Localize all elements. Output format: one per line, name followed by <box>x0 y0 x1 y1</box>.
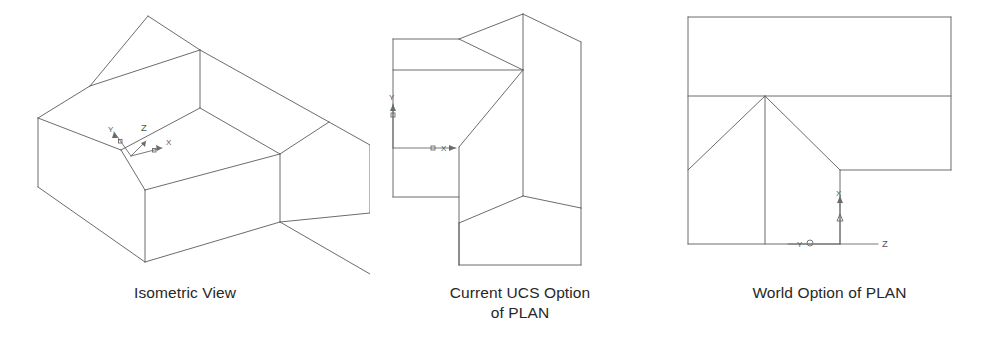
edge-hip-lower-left <box>459 196 523 223</box>
panel-isometric-view: Y Z X Isometric View <box>0 0 370 354</box>
caption-world-option: World Option of PLAN <box>670 283 989 303</box>
current-ucs-wireframe <box>393 14 581 265</box>
ucs-arrowhead-x <box>156 145 162 151</box>
edge-ridge-main <box>200 50 329 122</box>
caption-isometric-view: Isometric View <box>0 283 370 303</box>
ucs-label-y: Y <box>797 240 803 249</box>
edge-valley-left <box>121 150 145 190</box>
edge-valley-diagonal <box>459 70 523 147</box>
edge-eave-left-front <box>38 118 121 150</box>
edge-hip-left-to-ridge <box>90 50 200 86</box>
ucs-label-x: X <box>166 138 172 147</box>
edge-valley-to-right <box>145 154 280 190</box>
edge-ridge-top-left <box>148 16 200 50</box>
ucs-label-z: Z <box>141 122 147 133</box>
caption-current-ucs-option: Current UCS Option of PLAN <box>370 283 670 323</box>
caption-current-ucs-line2: of PLAN <box>370 303 670 323</box>
ucs-icon-isometric: Y Z X <box>108 122 172 156</box>
figure-sheet: Y Z X Isometric View <box>0 0 989 354</box>
edge-eave-far-right <box>329 122 370 145</box>
ucs-label-x: X <box>441 144 447 153</box>
isometric-view-drawing: Y Z X <box>0 0 370 280</box>
caption-isometric-line1: Isometric View <box>134 284 236 301</box>
isometric-wireframe <box>38 16 370 274</box>
edge-hip-upper-left <box>90 16 148 86</box>
edge-hip-inner-right <box>200 108 280 154</box>
edge-eave-upper-left <box>38 86 90 118</box>
ucs-icon-current: Y X <box>389 93 456 153</box>
current-ucs-plan-drawing: Y X <box>370 0 670 280</box>
ucs-label-x: X <box>836 189 842 198</box>
edge-hip-inner-left <box>121 108 200 150</box>
edge-base-right-1 <box>280 213 370 222</box>
ucs-label-y: Y <box>389 93 395 102</box>
ucs-icon-world: X Z Y <box>788 189 888 249</box>
edge-base-right-2 <box>280 222 370 274</box>
ucs-arrowhead-y <box>390 104 396 111</box>
ucs-arrowhead-x <box>449 145 456 151</box>
world-plan-wireframe <box>688 17 951 244</box>
edge-ridge-slope-left <box>459 14 523 39</box>
edge-hip-right-upper <box>280 122 329 154</box>
ucs-label-y: Y <box>108 125 114 134</box>
edge-hip-lower-right <box>523 196 581 208</box>
edge-ridge-slope-right <box>523 14 581 42</box>
panel-world-option: X Z Y World Option of PLAN <box>670 0 989 354</box>
edge-hip-to-right <box>765 96 840 170</box>
edge-base-left <box>38 187 145 262</box>
edge-base-front <box>145 222 280 262</box>
ucs-arrowhead-z <box>141 141 146 147</box>
caption-world-line1: World Option of PLAN <box>752 284 906 301</box>
caption-current-ucs-line1: Current UCS Option <box>450 284 591 301</box>
edge-hip-to-left <box>688 96 765 170</box>
ucs-label-z: Z <box>882 238 888 249</box>
world-plan-drawing: X Z Y <box>670 0 989 280</box>
panel-current-ucs-option: Y X Current UCS Option of PLAN <box>370 0 670 354</box>
ucs-origin-circle <box>807 240 813 246</box>
edge-hip-upper <box>459 39 523 70</box>
